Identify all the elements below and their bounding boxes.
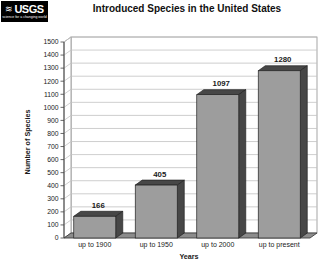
bar-top-face bbox=[197, 90, 246, 95]
usgs-logo-text: USGS bbox=[14, 4, 43, 15]
usgs-logo-top: ≋ USGS bbox=[5, 4, 43, 15]
y-axis-title: Number of Species bbox=[23, 109, 32, 174]
y-tick-label: 500 bbox=[47, 169, 59, 176]
y-tick-label: 700 bbox=[47, 143, 59, 150]
y-tick-label: 200 bbox=[47, 208, 59, 215]
usgs-wave-icon: ≋ bbox=[5, 5, 13, 14]
bar-top-face bbox=[135, 180, 184, 185]
y-tick-label: 1200 bbox=[43, 78, 58, 85]
x-category-label: up to 1900 bbox=[78, 241, 111, 249]
bar-side-face bbox=[177, 180, 184, 238]
bar-front-face bbox=[74, 216, 116, 238]
y-tick-label: 100 bbox=[47, 221, 59, 228]
bar-front-face bbox=[135, 185, 177, 238]
bar-side-face bbox=[116, 211, 123, 238]
y-tick-label: 800 bbox=[47, 130, 59, 137]
x-category-label: up to 2000 bbox=[201, 241, 234, 249]
bar-side-face bbox=[239, 90, 246, 238]
y-tick-label: 1500 bbox=[43, 38, 58, 45]
y-tick-label: 900 bbox=[47, 117, 59, 124]
bar-value-label: 166 bbox=[92, 201, 106, 210]
bar-value-label: 1280 bbox=[274, 55, 292, 64]
bar-value-label: 1097 bbox=[213, 79, 230, 88]
page: ≋ USGS science for a changing world Intr… bbox=[0, 0, 328, 269]
bar-top-face bbox=[74, 211, 123, 216]
bar-chart: 0100200300400500600700800900100011001200… bbox=[0, 26, 328, 269]
bar-front-face bbox=[258, 71, 300, 238]
y-tick-label: 1000 bbox=[43, 104, 58, 111]
bar-value-label: 405 bbox=[153, 170, 167, 179]
x-category-label: up to 1950 bbox=[140, 241, 173, 249]
bar-side-face bbox=[300, 66, 307, 238]
y-tick-label: 1100 bbox=[44, 91, 59, 98]
bar-top-face bbox=[258, 66, 307, 71]
y-tick-label: 600 bbox=[47, 156, 59, 163]
y-tick-label: 400 bbox=[47, 182, 59, 189]
x-axis-title: Years bbox=[179, 252, 198, 261]
y-tick-label: 1300 bbox=[43, 64, 58, 71]
usgs-logo: ≋ USGS science for a changing world bbox=[1, 1, 48, 22]
x-category-label: up to present bbox=[259, 241, 300, 249]
chart-title: Introduced Species in the United States bbox=[52, 3, 322, 14]
y-tick-label: 300 bbox=[47, 195, 59, 202]
y-tick-label: 0 bbox=[55, 234, 59, 241]
bar-front-face bbox=[197, 95, 239, 238]
usgs-tagline: science for a changing world bbox=[2, 16, 46, 20]
y-tick-label: 1400 bbox=[43, 51, 58, 58]
